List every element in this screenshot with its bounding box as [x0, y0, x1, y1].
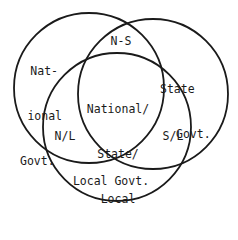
national-govt-label: Nat- ional Govt.: [20, 34, 64, 184]
national-state-local-label: National/ State/ Local: [80, 72, 156, 219]
state-label-line1: State: [160, 82, 220, 97]
nl-intersection-label: N/L: [52, 129, 78, 144]
center-label-line2: State/: [80, 147, 156, 162]
national-label-line2: ional: [20, 109, 64, 124]
local-govt-label: Local Govt.: [66, 174, 156, 189]
national-label-line1: Nat-: [20, 64, 64, 79]
sl-intersection-label: S/L: [160, 129, 186, 144]
center-label-line1: National/: [80, 102, 156, 117]
ns-intersection-label: N-S: [106, 34, 136, 49]
center-label-line3: Local: [80, 192, 156, 207]
national-label-line3: Govt.: [20, 154, 64, 169]
